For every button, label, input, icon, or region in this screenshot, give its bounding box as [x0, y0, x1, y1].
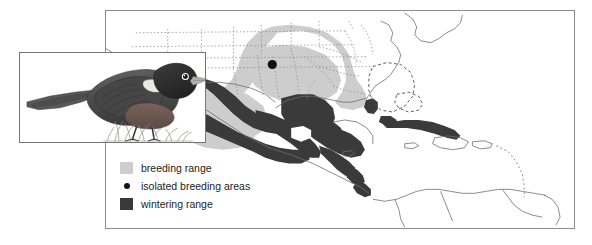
- isolated-breeding-dot-icon: [119, 180, 134, 193]
- legend-label-breeding-range: breeding range: [141, 162, 212, 175]
- map-legend: breeding range isolated breeding areas w…: [119, 160, 309, 214]
- legend-label-wintering-range: wintering range: [141, 198, 213, 211]
- bird-bill: [190, 76, 205, 85]
- range-map-figure: breeding range isolated breeding areas w…: [0, 0, 592, 245]
- bird-eye: [182, 73, 188, 79]
- bird-inset-box: [19, 52, 206, 143]
- bird-illustration: [20, 53, 205, 142]
- legend-item-breeding-range: breeding range: [119, 160, 309, 176]
- legend-label-isolated-breeding-areas: isolated breeding areas: [141, 180, 250, 193]
- caribbean-islands: [343, 136, 492, 157]
- legend-item-isolated-breeding-areas: isolated breeding areas: [119, 178, 309, 194]
- wintering-range-swatch-icon: [119, 198, 134, 211]
- bird-eye-highlight: [184, 75, 186, 77]
- wintering-florida: [364, 98, 378, 114]
- legend-item-wintering-range: wintering range: [119, 196, 309, 212]
- isolated-breeding-dot: [268, 60, 277, 69]
- breeding-range-swatch-icon: [119, 162, 134, 175]
